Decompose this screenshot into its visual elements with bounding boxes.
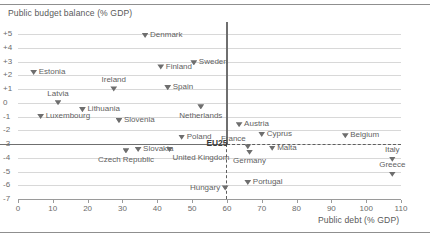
data-point-label: Hungary: [190, 183, 220, 192]
debt-threshold-line: [226, 22, 228, 145]
data-point-marker-icon: [236, 122, 243, 127]
deficit-threshold-line: [0, 144, 229, 146]
x-tick: [297, 200, 298, 203]
data-point-label: Germany: [233, 156, 266, 165]
data-point-label: Malta: [277, 143, 297, 152]
data-point-label: Latvia: [47, 89, 68, 98]
data-point-marker-icon: [222, 185, 229, 190]
x-tick: [192, 200, 193, 203]
data-point-marker-icon: [342, 133, 349, 138]
data-point-label: Denmark: [150, 30, 182, 39]
data-point-marker-icon: [116, 118, 123, 123]
data-point-label: Greece: [379, 160, 405, 169]
data-point-marker-icon: [123, 148, 130, 153]
x-tick: [262, 200, 263, 203]
data-point-label: Luxembourg: [46, 111, 90, 120]
data-point-label: Cyprus: [267, 129, 292, 138]
x-tick: [157, 200, 158, 203]
y-tick-label: -2: [3, 125, 10, 134]
x-tick-label: 110: [395, 204, 408, 213]
y-gridline: [18, 172, 401, 173]
x-tick-label: 80: [292, 204, 301, 213]
y-tick-label: -5: [3, 167, 10, 176]
x-tick: [331, 200, 332, 203]
data-point-marker-icon: [389, 172, 396, 177]
deficit-threshold-dashed: [227, 144, 401, 145]
data-point-marker-icon: [135, 147, 142, 152]
data-point-label: United Kingdom: [172, 153, 229, 162]
x-tick: [18, 200, 19, 203]
data-point-label: Finland: [166, 62, 192, 71]
x-tick-label: 50: [188, 204, 197, 213]
data-point-label: Austria: [244, 119, 269, 128]
x-tick-label: 30: [118, 204, 127, 213]
data-point-label: Ireland: [102, 75, 126, 84]
x-tick: [227, 200, 228, 203]
y-gridline: [18, 48, 401, 49]
y-gridline: [18, 75, 401, 76]
data-point-label: Belgium: [350, 130, 379, 139]
data-point-label: Portugal: [253, 177, 283, 186]
x-tick-label: 10: [48, 204, 57, 213]
y-tick-label: +4: [3, 43, 12, 52]
y-tick-label: 0: [3, 98, 7, 107]
y-tick-label: +3: [3, 57, 12, 66]
data-point-label: Italy: [385, 145, 400, 154]
data-point-marker-icon: [244, 144, 251, 149]
x-tick-label: 60: [222, 204, 231, 213]
x-tick: [366, 200, 367, 203]
y-gridline: [18, 34, 401, 35]
data-point-marker-icon: [178, 135, 185, 140]
data-point-marker-icon: [157, 64, 164, 69]
x-tick: [401, 200, 402, 203]
y-tick-label: -1: [3, 112, 10, 121]
data-point-label: Spain: [173, 82, 193, 91]
x-tick-label: 20: [83, 204, 92, 213]
chart-figure: Public budget balance (% GDP) Public deb…: [0, 0, 430, 239]
data-point-marker-icon: [258, 132, 265, 137]
y-tick-label: -7: [3, 194, 10, 203]
y-tick-label: +2: [3, 70, 12, 79]
data-point-marker-icon: [142, 33, 149, 38]
x-axis-line: [18, 199, 401, 200]
y-gridline: [18, 89, 401, 90]
data-point-marker-icon: [197, 104, 204, 109]
data-point-label: Czech Republic: [98, 155, 154, 164]
data-point-label: Lithuania: [87, 104, 119, 113]
data-point-marker-icon: [269, 146, 276, 151]
x-tick-label: 100: [359, 204, 372, 213]
y-gridline: [18, 103, 401, 104]
y-tick-label: -6: [3, 180, 10, 189]
data-point-label: Sweden: [199, 57, 228, 66]
data-point-label: France: [221, 134, 246, 143]
x-tick-label: 70: [257, 204, 266, 213]
data-point-label: Estonia: [39, 67, 66, 76]
data-point-marker-icon: [246, 150, 253, 155]
x-tick: [122, 200, 123, 203]
y-tick-label: +1: [3, 84, 12, 93]
y-tick-label: +5: [3, 29, 12, 38]
data-point-label: Slovenia: [124, 115, 155, 124]
x-tick-label: 0: [16, 204, 20, 213]
x-tick-label: 90: [327, 204, 336, 213]
plot-area: +5+4+3+2+10-1-2-3-4-5-6-7010203040506070…: [0, 0, 430, 239]
x-tick-label: 40: [153, 204, 162, 213]
x-tick: [53, 200, 54, 203]
y-tick-label: -4: [3, 153, 10, 162]
data-point-label: Netherlands: [179, 111, 222, 120]
x-tick: [88, 200, 89, 203]
